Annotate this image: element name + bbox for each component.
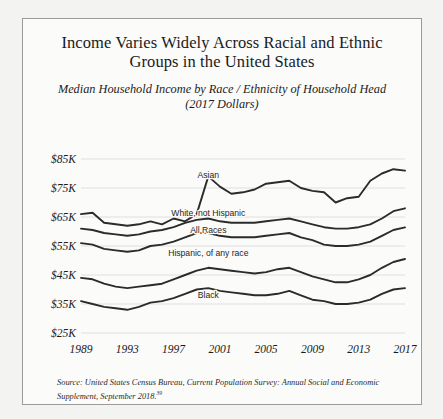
x-axis-tick-label: 2001 <box>208 343 231 355</box>
source-note-text: Source: United States Census Bureau, Cur… <box>57 378 379 401</box>
x-axis-ticks: 19891993199720012005200920132017 <box>70 343 418 355</box>
series-line <box>81 288 405 310</box>
series-labels-group: AsianAsianWhite, not HispanicWhite, not … <box>168 170 248 300</box>
series-line <box>81 259 405 288</box>
chart-title: Income Varies Widely Across Racial and E… <box>41 33 403 71</box>
source-footnote-marker: 39 <box>157 390 163 396</box>
chart-subtitle-line2: (2017 Dollars) <box>185 97 258 111</box>
y-axis-tick-label: $35K <box>51 298 77 310</box>
series-label: Black <box>198 290 220 300</box>
x-axis-tick-label: 1997 <box>162 343 186 355</box>
series-label: Asian <box>198 170 220 180</box>
figure-container: Income Varies Widely Across Racial and E… <box>22 18 422 405</box>
gridlines-group <box>81 159 405 333</box>
x-axis-tick-label: 2005 <box>255 343 278 355</box>
series-label: All Races <box>190 225 226 235</box>
x-axis-tick-label: 1989 <box>70 343 93 355</box>
y-axis-tick-label: $45K <box>51 269 77 281</box>
series-label: Hispanic, of any race <box>168 248 248 258</box>
x-axis-tick-label: 2017 <box>394 343 418 355</box>
source-note-wrap: Source: United States Census Bureau, Cur… <box>23 377 421 403</box>
x-axis-tick-label: 2009 <box>301 343 324 355</box>
line-chart: $85K$75K$65K$55K$45K$35K$25K AsianAsianW… <box>23 147 421 377</box>
source-note: Source: United States Census Bureau, Cur… <box>57 377 387 403</box>
y-axis-tick-label: $55K <box>51 240 77 252</box>
y-axis-tick-label: $65K <box>51 211 77 223</box>
x-axis-tick-label: 1993 <box>116 343 139 355</box>
chart-plot-area: $85K$75K$65K$55K$45K$35K$25K AsianAsianW… <box>23 147 421 377</box>
y-axis-tick-label: $25K <box>51 327 77 339</box>
series-label: White, not Hispanic <box>171 208 246 218</box>
y-axis-ticks: $85K$75K$65K$55K$45K$35K$25K <box>51 153 77 339</box>
chart-subtitle-line1: Median Household Income by Race / Ethnic… <box>58 82 386 96</box>
series-group <box>81 169 405 310</box>
chart-subtitle: Median Household Income by Race / Ethnic… <box>37 82 407 112</box>
y-axis-tick-label: $85K <box>51 153 77 165</box>
y-axis-tick-label: $75K <box>51 182 77 194</box>
x-axis-tick-label: 2013 <box>347 343 370 355</box>
